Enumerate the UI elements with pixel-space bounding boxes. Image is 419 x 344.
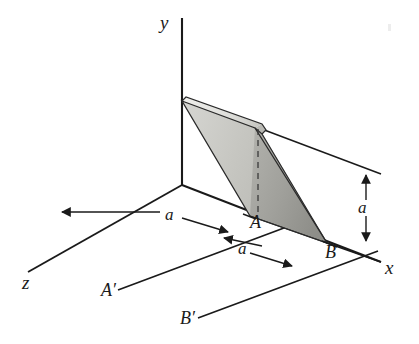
line-b-prime (198, 251, 378, 318)
axis-z (28, 185, 182, 272)
dimension-a-along-z (62, 212, 228, 232)
axis-label-x: x (385, 258, 393, 277)
axis-label-y: y (160, 13, 168, 32)
line-a-prime (118, 222, 300, 290)
diagram-canvas (0, 0, 419, 344)
point-label-B: B (325, 243, 336, 261)
dimension-label-a-z: a (165, 206, 174, 223)
point-label-A: A (250, 213, 261, 231)
dimension-label-a-x: a (238, 240, 247, 257)
scan-speck (388, 24, 391, 31)
point-label-B-prime: B′ (180, 309, 195, 327)
figure-container: y x z A B A′ B′ a a a (0, 0, 419, 344)
dimension-a-along-x (224, 238, 292, 266)
dimension-label-a-vertical: a (358, 199, 367, 216)
point-label-A-prime: A′ (101, 281, 116, 299)
axis-label-z: z (22, 273, 29, 292)
